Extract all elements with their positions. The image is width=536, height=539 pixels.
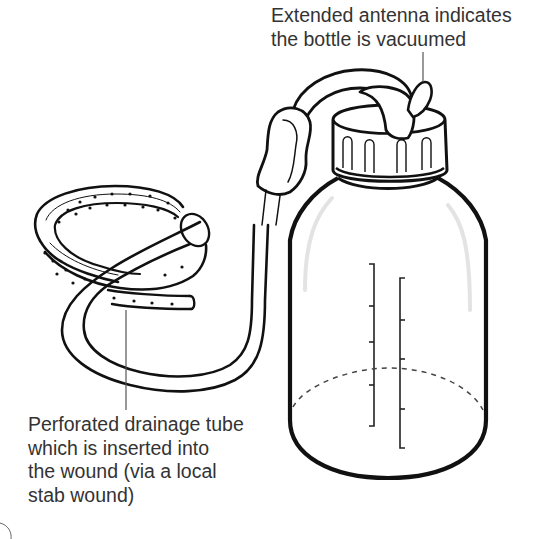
bottle bbox=[290, 178, 486, 478]
diagram-canvas: Extended antenna indicates the bottle is… bbox=[0, 0, 536, 539]
antenna-callout-label: Extended antenna indicates the bottle is… bbox=[271, 4, 512, 51]
corner-arc bbox=[0, 523, 11, 539]
drain-coil bbox=[35, 186, 268, 391]
drainage-tube-callout-label: Perforated drainage tube which is insert… bbox=[28, 413, 244, 507]
